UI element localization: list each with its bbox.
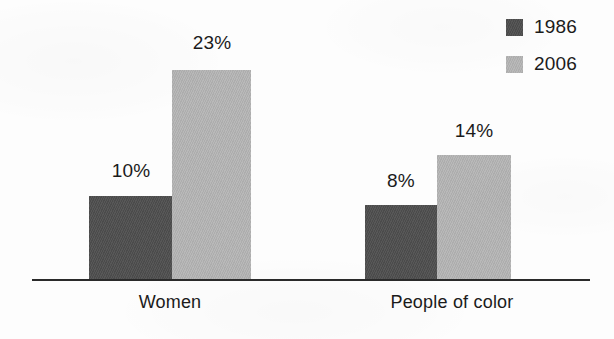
- legend-label-1986: 1986: [534, 16, 577, 38]
- bar-women-1986: [89, 196, 172, 279]
- legend-swatch-1986-icon: [506, 19, 523, 36]
- bar-label-people-of-color-2006: 14%: [438, 120, 510, 142]
- bar-women-2006: [172, 70, 251, 279]
- bar-label-women-1986: 10%: [95, 160, 167, 182]
- bar-people-of-color-2006: [437, 155, 511, 279]
- legend-item-2006: 2006: [506, 53, 610, 75]
- bar-people-of-color-1986: [365, 205, 437, 279]
- bar-label-people-of-color-1986: 8%: [366, 170, 436, 192]
- legend-item-1986: 1986: [506, 16, 610, 38]
- legend-label-2006: 2006: [534, 53, 577, 75]
- x-axis-baseline: [32, 279, 590, 281]
- category-label-people-of-color: People of color: [372, 292, 532, 313]
- chart-legend: 1986 2006: [506, 16, 610, 90]
- bar-chart: 10% 23% Women 8% 14% People of color 198…: [0, 0, 614, 339]
- category-label-women: Women: [110, 292, 230, 313]
- bar-label-women-2006: 23%: [176, 32, 248, 54]
- legend-swatch-2006-icon: [506, 56, 523, 73]
